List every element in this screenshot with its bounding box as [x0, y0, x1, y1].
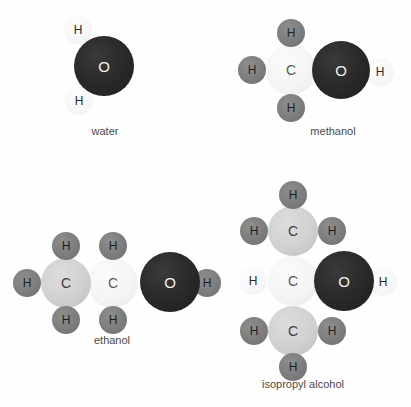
atom-h: H — [277, 19, 305, 47]
atom-h: H — [238, 56, 266, 84]
atom-h: H — [52, 306, 80, 334]
molecule-label-water: water — [5, 125, 205, 137]
atom-h: H — [52, 232, 80, 260]
atom-h: H — [279, 353, 307, 381]
atom-c: C — [268, 256, 318, 306]
atom-h: H — [240, 317, 268, 345]
atom-h: H — [239, 267, 267, 295]
atom-o: O — [74, 36, 134, 96]
atom-h: H — [99, 232, 127, 260]
atom-h: H — [240, 217, 268, 245]
molecule-label-methanol: methanol — [233, 125, 411, 137]
atom-h: H — [13, 269, 41, 297]
atom-o: O — [140, 252, 200, 312]
atom-c: C — [88, 258, 138, 308]
atom-h: H — [99, 306, 127, 334]
atom-h: H — [318, 317, 346, 345]
atom-h: H — [318, 217, 346, 245]
atom-h: H — [277, 94, 305, 122]
atom-o: O — [312, 41, 370, 99]
molecule-label-ethanol: ethanol — [12, 334, 212, 346]
atom-c: C — [268, 306, 318, 356]
atom-h: H — [366, 58, 394, 86]
molecular-structure-diagram: HHOwaterHHHCOHmethanolHHHCHHCOHethanolHH… — [0, 0, 411, 407]
atom-c: C — [41, 258, 91, 308]
atom-c: C — [268, 206, 318, 256]
atom-c: C — [266, 45, 316, 95]
atom-h: H — [279, 181, 307, 209]
atom-o: O — [314, 251, 374, 311]
molecule-label-isopropyl-alcohol: isopropyl alcohol — [203, 378, 403, 390]
